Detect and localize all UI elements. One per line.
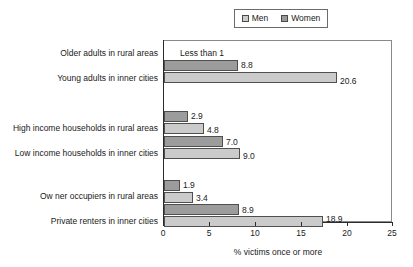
bar-low-income-women — [164, 136, 223, 147]
bar-chart: Men Women Older adults in rural areas Le… — [0, 0, 413, 267]
category-label-high-income: High income households in rural areas — [0, 123, 158, 134]
bar-value-young-men: 20.6 — [340, 76, 357, 87]
bar-high-income-women — [164, 111, 188, 122]
tick-mark-10 — [255, 222, 256, 226]
bar-owner-women — [164, 180, 180, 191]
bar-low-income-men — [164, 148, 240, 159]
bar-value-high-income-women: 2.9 — [191, 111, 203, 122]
legend-item-women: Women — [281, 14, 320, 23]
tick-label-0: 0 — [161, 228, 166, 238]
tick-label-25: 25 — [387, 228, 396, 238]
bar-value-renters-men: 18.9 — [326, 214, 343, 225]
tick-mark-0 — [163, 222, 164, 226]
tick-mark-25 — [392, 222, 393, 226]
bar-owner-men — [164, 192, 193, 203]
x-axis-title: % victims once or more — [163, 247, 393, 257]
chart-legend: Men Women — [234, 9, 328, 28]
tick-label-10: 10 — [250, 228, 259, 238]
tick-label-20: 20 — [342, 228, 351, 238]
tick-mark-15 — [301, 222, 302, 226]
bar-young-men — [164, 72, 337, 83]
legend-label-women: Women — [291, 14, 320, 23]
category-label-owner-occupiers: Ow ner occupiers in rural areas — [0, 191, 158, 202]
bar-young-women — [164, 60, 238, 71]
bar-renters-women — [164, 204, 239, 215]
bar-value-high-income-men: 4.8 — [207, 125, 219, 136]
bar-renters-men — [164, 216, 323, 227]
bar-value-low-income-men: 9.0 — [243, 151, 255, 162]
tick-label-15: 15 — [296, 228, 305, 238]
bar-high-income-men — [164, 123, 204, 134]
bar-value-owner-men: 3.4 — [196, 193, 208, 204]
bar-value-young-women: 8.8 — [241, 60, 253, 71]
legend-label-men: Men — [252, 14, 269, 23]
bar-annotation-older-women: Less than 1 — [180, 48, 224, 59]
legend-swatch-women-icon — [281, 15, 288, 22]
category-label-older-adults: Older adults in rural areas — [0, 48, 158, 59]
category-label-low-income: Low income households in inner cities — [0, 148, 158, 159]
category-label-private-renters: Private renters in inner cities — [0, 216, 158, 227]
bar-value-renters-women: 8.9 — [242, 205, 254, 216]
bar-value-owner-women: 1.9 — [183, 180, 195, 191]
category-label-young-adults: Young adults in inner cities — [0, 73, 158, 84]
tick-mark-5 — [209, 222, 210, 226]
tick-label-5: 5 — [207, 228, 212, 238]
legend-item-men: Men — [242, 14, 269, 23]
legend-swatch-men-icon — [242, 15, 249, 22]
bar-value-low-income-women: 7.0 — [226, 137, 238, 148]
tick-mark-20 — [347, 222, 348, 226]
